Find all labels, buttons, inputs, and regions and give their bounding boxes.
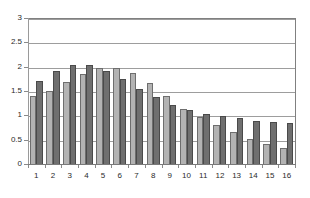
- y-axis-tick-mark: [24, 140, 28, 141]
- x-axis-tick-label: 5: [95, 171, 112, 180]
- bar: [180, 109, 187, 165]
- bar-group: [178, 19, 195, 165]
- bar: [96, 68, 103, 165]
- x-axis-tick-label: 4: [78, 171, 95, 180]
- x-axis-tick-mark: [278, 165, 279, 168]
- bar: [53, 71, 60, 165]
- x-axis-tick-mark: [28, 165, 29, 168]
- bar: [147, 83, 154, 165]
- bar: [136, 89, 143, 165]
- x-axis-tick-label: 9: [162, 171, 179, 180]
- plot-area: [28, 18, 296, 165]
- x-axis-tick-mark: [61, 165, 62, 168]
- x-axis-tick-label: 7: [128, 171, 145, 180]
- bar: [70, 65, 77, 165]
- bar: [120, 79, 127, 165]
- x-axis-tick-label: 2: [45, 171, 62, 180]
- x-axis-tick-mark: [262, 165, 263, 168]
- x-axis-tick-mark: [78, 165, 79, 168]
- bar: [30, 96, 37, 165]
- x-axis-tick-label: 14: [245, 171, 262, 180]
- x-axis-tick-mark: [245, 165, 246, 168]
- y-axis-tick-label: 2: [0, 63, 22, 71]
- x-axis-tick-mark: [195, 165, 196, 168]
- bar: [197, 117, 204, 165]
- bar-group: [45, 19, 62, 165]
- bar-group: [28, 19, 45, 165]
- bar: [287, 123, 294, 165]
- bar-group: [228, 19, 245, 165]
- y-axis-tick-mark: [24, 18, 28, 19]
- bar: [170, 105, 177, 165]
- bar-group: [61, 19, 78, 165]
- bar: [80, 74, 87, 165]
- bar: [253, 121, 260, 165]
- x-axis-tick-mark: [228, 165, 229, 168]
- bar: [280, 148, 287, 165]
- bar-group: [162, 19, 179, 165]
- bar: [187, 110, 194, 165]
- bar-group: [111, 19, 128, 165]
- bar: [203, 114, 210, 165]
- bar-group: [245, 19, 262, 165]
- bar: [63, 82, 70, 165]
- y-axis-tick-label: 0: [0, 160, 22, 168]
- bar: [230, 132, 237, 165]
- y-axis-tick-label: 1: [0, 111, 22, 119]
- y-axis-tick-label: 2.5: [0, 38, 22, 46]
- x-axis-tick-mark: [212, 165, 213, 168]
- y-axis-tick-mark: [24, 42, 28, 43]
- bar: [163, 96, 170, 165]
- x-axis-tick-label: 6: [111, 171, 128, 180]
- bar-group: [195, 19, 212, 165]
- bar: [213, 125, 220, 165]
- y-axis-line: [28, 18, 29, 165]
- x-axis-tick-label: 3: [61, 171, 78, 180]
- x-axis-tick-mark: [128, 165, 129, 168]
- y-axis-tick-label: 1.5: [0, 87, 22, 95]
- x-axis-tick-label: 15: [262, 171, 279, 180]
- bar-group: [212, 19, 229, 165]
- bar: [46, 91, 53, 165]
- x-axis-tick-label: 11: [195, 171, 212, 180]
- bar: [247, 139, 254, 165]
- bar: [36, 81, 43, 165]
- x-axis-tick-mark: [295, 165, 296, 168]
- x-axis-tick-mark: [95, 165, 96, 168]
- bar: [113, 68, 120, 165]
- bar: [237, 118, 244, 165]
- x-axis-tick-mark: [145, 165, 146, 168]
- y-axis-tick-mark: [24, 91, 28, 92]
- bar: [270, 122, 277, 165]
- bar: [103, 71, 110, 165]
- x-axis-tick-mark: [111, 165, 112, 168]
- bar-group: [95, 19, 112, 165]
- y-axis-tick-label: 3: [0, 14, 22, 22]
- bar: [86, 65, 93, 165]
- bar: [130, 73, 137, 165]
- x-axis-tick-label: 1: [28, 171, 45, 180]
- x-axis-tick-label: 10: [178, 171, 195, 180]
- x-axis-tick-label: 8: [145, 171, 162, 180]
- bar: [220, 116, 227, 165]
- y-axis-tick-mark: [24, 67, 28, 68]
- bar-group: [145, 19, 162, 165]
- bar-chart: 00.511.522.53 12345678910111213141516: [0, 0, 310, 198]
- y-axis-tick-label: 0.5: [0, 136, 22, 144]
- x-axis-tick-mark: [162, 165, 163, 168]
- x-axis-tick-label: 12: [212, 171, 229, 180]
- x-axis-tick-label: 13: [228, 171, 245, 180]
- bar-group: [278, 19, 295, 165]
- x-axis-tick-mark: [45, 165, 46, 168]
- bar-group: [128, 19, 145, 165]
- x-axis-tick-mark: [178, 165, 179, 168]
- bar: [263, 144, 270, 165]
- bar-group: [262, 19, 279, 165]
- bar-group: [78, 19, 95, 165]
- y-axis-tick-mark: [24, 115, 28, 116]
- bar: [153, 97, 160, 165]
- x-axis-tick-label: 16: [278, 171, 295, 180]
